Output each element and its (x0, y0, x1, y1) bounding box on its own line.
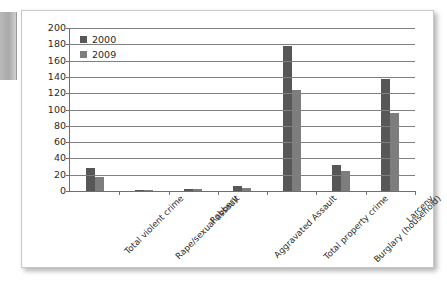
bar-2000[interactable] (233, 186, 242, 191)
y-axis-tick (66, 77, 70, 78)
screenshot-root: 200180160140120100806040200 20002009 Tot… (0, 0, 447, 284)
chart-card: 200180160140120100806040200 20002009 Tot… (21, 10, 434, 268)
x-axis-tick (415, 191, 416, 195)
y-axis-tick (66, 61, 70, 62)
gridline (70, 44, 415, 45)
gridline (70, 175, 415, 176)
y-axis-tick-label: 180 (48, 40, 66, 50)
legend-swatch-icon (80, 51, 87, 58)
legend-label: 2009 (92, 50, 116, 60)
bar-2009[interactable] (242, 188, 251, 191)
gridline (70, 77, 415, 78)
bar-2000[interactable] (332, 165, 341, 191)
bar-2009[interactable] (390, 113, 399, 191)
x-axis-category-label: Total violent crime (123, 194, 186, 257)
gridline (70, 28, 415, 29)
bar-2009[interactable] (292, 90, 301, 191)
y-axis-tick (66, 126, 70, 127)
legend-label: 2000 (92, 35, 116, 45)
gridline (70, 110, 415, 111)
y-axis-tick (66, 142, 70, 143)
y-axis-tick-label: 20 (54, 170, 66, 180)
gridline (70, 61, 415, 62)
bar-chart: 200180160140120100806040200 20002009 Tot… (22, 11, 435, 269)
bar-2009[interactable] (95, 177, 104, 191)
y-axis-tick (66, 158, 70, 159)
gridline (70, 93, 415, 94)
bar-2000[interactable] (184, 189, 193, 191)
bar-2000[interactable] (135, 190, 144, 191)
gridline (70, 158, 415, 159)
legend-item[interactable]: 2000 (80, 33, 116, 46)
y-axis-tick-label: 80 (54, 121, 66, 131)
x-axis-labels: Total violent crimeRape/sexual assaultRo… (69, 194, 414, 266)
x-axis-category-label: Robbery (209, 194, 241, 226)
y-axis-tick-label: 40 (54, 154, 66, 164)
y-axis-tick-label: 200 (48, 23, 66, 33)
y-axis-tick-label: 140 (48, 72, 66, 82)
y-axis-labels: 200180160140120100806040200 (32, 28, 66, 191)
y-axis-tick-label: 160 (48, 56, 66, 66)
y-axis-tick (66, 44, 70, 45)
bar-2009[interactable] (193, 189, 202, 191)
plot-area (69, 28, 415, 192)
legend-swatch-icon (80, 36, 87, 43)
y-axis-tick (66, 175, 70, 176)
chart-legend: 20002009 (80, 33, 116, 63)
bar-2009[interactable] (144, 190, 153, 191)
y-axis-tick-label: 120 (48, 88, 66, 98)
bar-2000[interactable] (283, 46, 292, 191)
bar-2000[interactable] (86, 168, 95, 191)
gridline (70, 142, 415, 143)
y-axis-tick (66, 28, 70, 29)
gridline (70, 126, 415, 127)
left-edge-tab[interactable] (0, 12, 17, 80)
y-axis-tick-label: 60 (54, 137, 66, 147)
y-axis-tick (66, 191, 70, 192)
legend-item[interactable]: 2009 (80, 48, 116, 61)
y-axis-tick (66, 110, 70, 111)
y-axis-tick (66, 93, 70, 94)
y-axis-tick-label: 100 (48, 105, 66, 115)
